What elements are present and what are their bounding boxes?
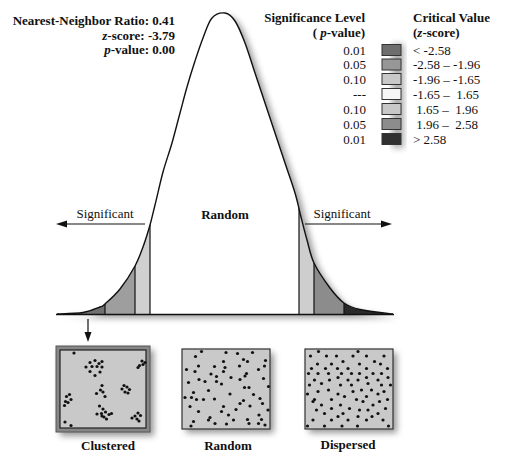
ratio-value: 0.41 — [152, 13, 175, 28]
point-dot — [330, 407, 333, 410]
point-dot — [195, 398, 198, 401]
point-dot — [336, 392, 339, 395]
point-dot — [370, 415, 373, 418]
point-dot — [360, 388, 363, 391]
right-significant-label: Significant — [313, 206, 370, 221]
point-dot — [128, 388, 131, 391]
point-dot — [320, 382, 323, 385]
point-dot — [330, 398, 333, 401]
point-dot — [220, 410, 223, 413]
point-dot — [187, 381, 190, 384]
point-dot — [207, 418, 210, 421]
point-dot — [376, 412, 379, 415]
point-dot — [386, 398, 389, 401]
point-dot — [194, 355, 197, 358]
legend-row: 0.10 -1.96 – -1.65 — [343, 72, 480, 87]
point-dot — [139, 414, 142, 417]
dispersed-label: Dispersed — [321, 437, 377, 452]
p-value-value: 0.00 — [152, 42, 175, 57]
point-dot — [316, 362, 319, 365]
legend-swatch — [382, 45, 401, 56]
legend-range: -1.65 – 1.65 — [413, 87, 479, 102]
arrow-right-icon — [381, 221, 392, 228]
point-dot — [236, 352, 239, 355]
point-dot — [378, 400, 381, 403]
point-dot — [215, 375, 218, 378]
point-dot — [215, 380, 218, 383]
point-dot — [69, 424, 72, 427]
point-dot — [193, 370, 196, 373]
point-dot — [90, 365, 93, 368]
point-dot — [246, 360, 249, 363]
point-dot — [123, 390, 126, 393]
point-dot — [330, 418, 333, 421]
legend-p-value-subheader: ( p-value) — [313, 25, 365, 40]
legend: Significance Level ( p-value) Critical V… — [264, 10, 490, 148]
point-dot — [306, 424, 309, 427]
point-dot — [386, 367, 389, 370]
arrow-down-icon — [85, 332, 92, 342]
point-dot — [136, 366, 139, 369]
legend-swatch — [382, 119, 401, 130]
legend-range: 1.65 – 1.96 — [413, 102, 479, 117]
point-dot — [310, 367, 313, 370]
point-dot — [202, 398, 205, 401]
point-dot — [323, 424, 326, 427]
point-dot — [257, 368, 260, 371]
point-dot — [101, 390, 104, 393]
point-dot — [346, 367, 349, 370]
point-dot — [355, 398, 358, 401]
point-dot — [267, 385, 270, 388]
point-dot — [238, 364, 241, 367]
point-dot — [371, 372, 374, 375]
point-dot — [88, 370, 91, 373]
point-dot — [341, 412, 344, 415]
point-dot — [95, 412, 98, 415]
point-dot — [335, 354, 338, 357]
point-dot — [95, 392, 98, 395]
p-value-text: p-value: 0.00 — [103, 42, 175, 57]
legend-swatch — [382, 104, 401, 115]
point-dot — [228, 392, 231, 395]
point-dot — [99, 388, 102, 391]
z-score-value: -3.79 — [148, 28, 176, 43]
point-dot — [248, 404, 251, 407]
point-dot — [324, 367, 327, 370]
random-pattern: Random — [182, 349, 274, 453]
legend-p: 0.10 — [343, 72, 366, 87]
point-dot — [98, 370, 101, 373]
point-dot — [69, 398, 72, 401]
legend-range: > 2.58 — [413, 132, 446, 147]
point-dot — [327, 372, 330, 375]
point-dot — [100, 384, 103, 387]
point-dot — [263, 364, 266, 367]
point-dot — [380, 372, 383, 375]
point-dot — [356, 378, 359, 381]
point-dot — [373, 360, 376, 363]
point-dot — [243, 386, 246, 389]
point-dot — [308, 383, 311, 386]
point-dot — [376, 392, 379, 395]
point-dot — [341, 360, 344, 363]
point-dot — [376, 378, 379, 381]
point-dot — [222, 370, 225, 373]
point-dot — [365, 395, 368, 398]
point-dot — [103, 395, 106, 398]
point-dot — [98, 404, 101, 407]
legend-range: < -2.58 — [413, 43, 451, 58]
point-dot — [266, 408, 269, 411]
point-dot — [242, 358, 245, 361]
down-arrow — [85, 319, 92, 342]
point-dot — [262, 377, 265, 380]
legend-swatch — [382, 59, 401, 70]
point-dot — [100, 360, 103, 363]
point-dot — [104, 410, 107, 413]
point-dot — [197, 410, 200, 413]
clustered-label: Clustered — [81, 438, 136, 453]
point-dot — [63, 420, 66, 423]
left-significant-label: Significant — [76, 206, 133, 221]
legend-range: 1.96 – 2.58 — [413, 117, 478, 132]
point-dot — [225, 422, 228, 425]
legend-range: -1.96 – -1.65 — [413, 72, 480, 87]
point-dot — [185, 368, 188, 371]
